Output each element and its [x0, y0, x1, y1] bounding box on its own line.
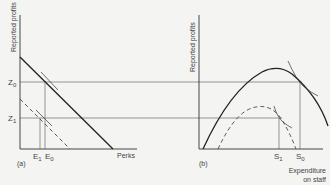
panel-a-label: (a) — [17, 160, 26, 168]
e0-label: E0 — [45, 152, 54, 162]
z1-label: Z1 — [8, 114, 17, 124]
z0-label: Z0 — [8, 78, 17, 88]
panel-b-x-axis-label-line1: Expenditure — [289, 167, 326, 175]
profit-curve-solid — [203, 68, 328, 149]
panel-a: Reported profits Z0 Z1 E1 E0 Perks (a) — [8, 2, 137, 168]
panel-b-label: (b) — [199, 160, 208, 168]
profit-curve-dashed — [218, 107, 296, 149]
panel-b: Reported profits S1 S0 (b) Expenditure o… — [189, 15, 328, 183]
e1-label: E1 — [33, 152, 42, 162]
panel-b-x-axis-label-line2: on staff — [303, 176, 326, 183]
indifference-curve-s0 — [288, 61, 318, 96]
s1-label: S1 — [274, 152, 283, 162]
budget-line-solid — [20, 57, 113, 149]
panel-a-y-axis-label: Reported profits — [10, 2, 18, 52]
panel-b-y-axis-label: Reported profits — [189, 22, 197, 72]
diagram: Reported profits Z0 Z1 E1 E0 Perks (a) R… — [0, 0, 330, 185]
s0-label: S0 — [296, 152, 305, 162]
indifference-curve-s1 — [274, 106, 292, 128]
panel-a-x-axis-label: Perks — [117, 152, 135, 159]
